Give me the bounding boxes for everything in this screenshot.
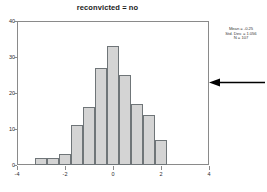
histogram-bars: [17, 21, 209, 165]
statistics-annotation: Mean = -0.25 Std. Dev. = 1.056 N = 107: [218, 27, 264, 41]
x-axis-tick-label: 4: [202, 171, 216, 177]
x-axis-tick-mark: [65, 166, 66, 170]
y-axis-tick-mark: [14, 21, 17, 22]
pointer-arrow-icon: [207, 76, 267, 89]
histogram-chart: reconvicted = no 010203040 -4-2024 Mean …: [0, 0, 267, 192]
x-axis-tick-mark: [113, 166, 114, 170]
histogram-bar: [71, 125, 83, 165]
x-axis-tick-mark: [161, 166, 162, 170]
histogram-bar: [155, 140, 167, 165]
x-axis: -4-2024: [17, 166, 209, 180]
histogram-bar: [107, 46, 119, 165]
histogram-bar: [131, 104, 143, 165]
y-axis-tick-mark: [14, 129, 17, 130]
histogram-bar: [59, 154, 71, 165]
x-axis-tick-mark: [17, 166, 18, 170]
x-axis-tick-label: 0: [106, 171, 120, 177]
y-axis-tick-mark: [14, 57, 17, 58]
histogram-bar: [119, 75, 131, 165]
y-axis: 010203040: [0, 21, 15, 165]
x-axis-tick-mark: [209, 166, 210, 170]
y-axis-tick-mark: [14, 93, 17, 94]
histogram-bar: [143, 115, 155, 165]
histogram-bar: [47, 158, 59, 165]
x-axis-tick-label: -2: [58, 171, 72, 177]
stats-n: N = 107: [218, 36, 264, 41]
chart-title: reconvicted = no: [0, 3, 215, 12]
histogram-bar: [35, 158, 47, 165]
histogram-bar: [95, 68, 107, 165]
x-axis-tick-label: 2: [154, 171, 168, 177]
histogram-bar: [83, 107, 95, 165]
x-axis-tick-label: -4: [10, 171, 24, 177]
